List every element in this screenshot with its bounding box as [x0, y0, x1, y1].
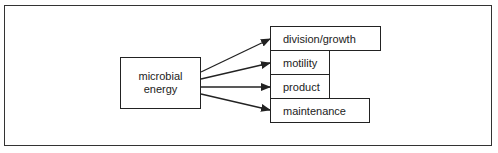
arrows-layer	[0, 0, 498, 153]
arrow-to-division-growth	[201, 39, 270, 72]
product-label: product	[283, 81, 320, 93]
source-label-line2: energy	[138, 83, 182, 96]
source-label-line1: microbial	[138, 70, 182, 83]
division-growth-box: division/growth	[270, 26, 381, 51]
product-box: product	[270, 74, 330, 99]
microbial-energy-box: microbial energy	[120, 57, 201, 109]
division-growth-label: division/growth	[283, 33, 356, 45]
motility-box: motility	[270, 50, 330, 75]
maintenance-label: maintenance	[283, 105, 346, 117]
motility-label: motility	[283, 57, 317, 69]
arrow-to-motility	[201, 63, 270, 79]
arrow-to-maintenance	[201, 94, 270, 110]
maintenance-box: maintenance	[270, 98, 370, 123]
